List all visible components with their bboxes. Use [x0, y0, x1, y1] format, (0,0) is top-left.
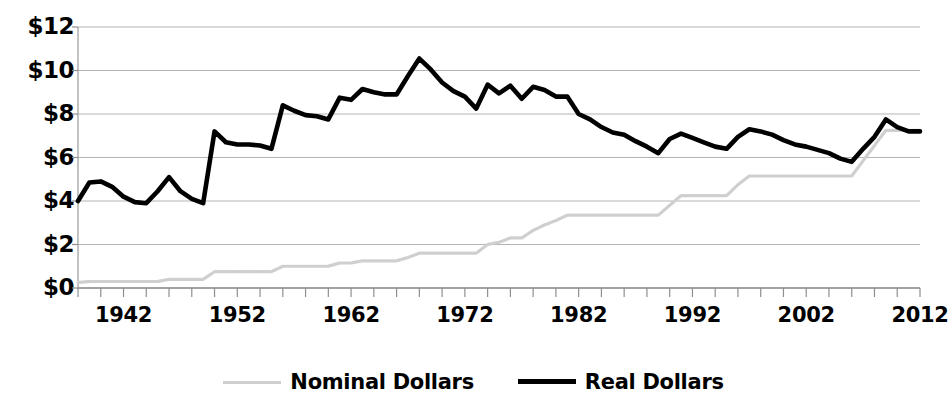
legend-line-swatch-real	[518, 375, 576, 389]
series-line-real-dollars	[78, 59, 920, 204]
legend-label-nominal: Nominal Dollars	[290, 370, 474, 394]
y-axis-ticks	[72, 27, 78, 288]
x-axis-tick-label: 2002	[778, 303, 835, 327]
x-axis-tick-label: 1982	[550, 303, 607, 327]
x-axis-tick-label: 1942	[95, 303, 152, 327]
legend-line-swatch-nominal	[223, 375, 281, 389]
gridlines	[78, 27, 920, 288]
chart-legend: Nominal Dollars Real Dollars	[0, 362, 947, 402]
series-line-nominal-dollars	[78, 130, 920, 282]
x-axis-tick-label: 2012	[891, 303, 948, 327]
x-axis-tick-label: 1952	[209, 303, 266, 327]
legend-item-nominal: Nominal Dollars	[223, 370, 474, 394]
x-axis-ticks	[78, 288, 920, 297]
x-axis-tick-label: 1992	[664, 303, 721, 327]
x-axis-tick-label: 1972	[436, 303, 493, 327]
legend-label-real: Real Dollars	[585, 370, 724, 394]
legend-item-real: Real Dollars	[518, 370, 724, 394]
x-axis-tick-label: 1962	[322, 303, 379, 327]
